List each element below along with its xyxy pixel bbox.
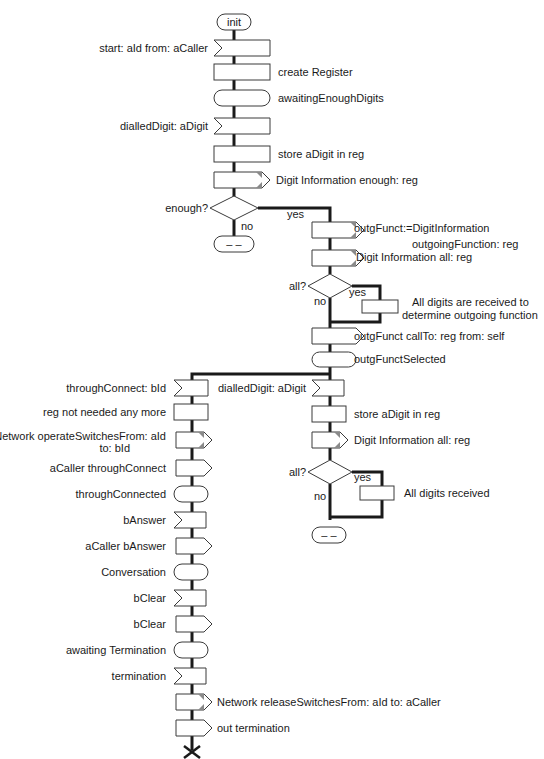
output-digit-info-enough: Digit Information enough: reg: [214, 172, 418, 188]
svg-text:All digits are received to: All digits are received to: [412, 296, 529, 308]
output-acaller-through-connect: aCaller throughConnect: [50, 460, 212, 476]
svg-text:store aDigit in reg: store aDigit in reg: [278, 148, 364, 160]
svg-text:awaiting Termination: awaiting Termination: [66, 644, 166, 656]
svg-text:All digits received: All digits received: [404, 487, 490, 499]
svg-text:all?: all?: [289, 280, 306, 292]
svg-text:outgFunct:=DigitInformation: outgFunct:=DigitInformation: [354, 222, 489, 234]
svg-text:enough?: enough?: [165, 202, 208, 214]
svg-text:outgFunctSelected: outgFunctSelected: [354, 353, 446, 365]
svg-text:awaitingEnoughDigits: awaitingEnoughDigits: [278, 92, 384, 104]
svg-text:Network releaseSwitchesFrom: a: Network releaseSwitchesFrom: aId to: aCa…: [217, 696, 441, 708]
svg-text:– –: – –: [321, 529, 337, 541]
flow-all1-merge: [330, 313, 380, 322]
svg-text:throughConnect: bId: throughConnect: bId: [66, 382, 166, 394]
svg-text:termination: termination: [112, 670, 166, 682]
svg-text:out termination: out termination: [217, 722, 290, 734]
input-dialled-digit-2: dialledDigit: aDigit: [218, 380, 344, 396]
state-through-connected: throughConnected: [75, 486, 208, 502]
output-b-clear: bClear: [134, 616, 212, 632]
task-store-digit: store aDigit in reg: [214, 146, 364, 162]
svg-text:reg not needed any more: reg not needed any more: [43, 406, 166, 418]
svg-text:create Register: create Register: [278, 66, 353, 78]
svg-text:start: aId from: aCaller: start: aId from: aCaller: [99, 42, 208, 54]
svg-text:dialledDigit: aDigit: dialledDigit: aDigit: [218, 382, 306, 394]
flow-split-left: [192, 374, 330, 382]
state-dash-1: – –: [214, 236, 254, 252]
svg-text:aCaller throughConnect: aCaller throughConnect: [50, 462, 166, 474]
svg-text:bClear: bClear: [134, 618, 167, 630]
state-awaiting-termination: awaiting Termination: [66, 642, 208, 658]
svg-text:– –: – –: [226, 238, 242, 250]
input-through-connect: throughConnect: bId: [66, 380, 208, 396]
task-store-digit-2: store aDigit in reg: [312, 406, 440, 422]
output-digit-info-all-1: Digit Information all: reg: [312, 250, 472, 266]
task-create-register: create Register: [214, 64, 353, 80]
svg-text:yes: yes: [354, 471, 372, 483]
input-b-clear: bClear: [134, 590, 206, 606]
output-outgfunct-assign: outgFunct:=DigitInformation outgoingFunc…: [312, 222, 518, 250]
task-all-digits-received-to-determine: All digits are received to determine out…: [362, 296, 538, 321]
state-dash-2: – –: [312, 527, 346, 543]
output-outgfunct-callto: outgFunct callTo: reg from: self: [312, 328, 505, 344]
svg-text:bClear: bClear: [134, 592, 167, 604]
output-digit-info-all-2: Digit Information all: reg: [312, 432, 470, 448]
svg-text:Digit Information enough: reg: Digit Information enough: reg: [276, 174, 418, 186]
input-dialled-digit: dialledDigit: aDigit: [120, 118, 270, 134]
svg-text:all?: all?: [289, 466, 306, 478]
svg-text:no: no: [241, 220, 253, 232]
svg-text:bAnswer: bAnswer: [123, 514, 166, 526]
input-b-answer: bAnswer: [123, 512, 206, 528]
flow-right-merge: [330, 500, 382, 517]
svg-text:Network operateSwitchesFrom: a: Network operateSwitchesFrom: aId: [0, 430, 166, 442]
svg-text:Digit Information all: reg: Digit Information all: reg: [356, 251, 472, 263]
svg-text:outgoingFunction: reg: outgoingFunction: reg: [412, 238, 518, 250]
output-network-operate-switches: Network operateSwitchesFrom: aId to: bId: [0, 430, 212, 454]
svg-text:Conversation: Conversation: [101, 566, 166, 578]
sdl-flowchart: init start: aId from: aCaller create Reg…: [0, 0, 544, 759]
svg-text:throughConnected: throughConnected: [75, 488, 166, 500]
svg-text:yes: yes: [349, 286, 367, 298]
svg-text:no: no: [314, 490, 326, 502]
state-awaiting-enough-digits: awaitingEnoughDigits: [214, 90, 384, 106]
output-acaller-b-answer: aCaller bAnswer: [85, 538, 212, 554]
input-start: start: aId from: aCaller: [99, 40, 270, 56]
task-reg-not-needed: reg not needed any more: [43, 404, 208, 420]
svg-text:dialledDigit: aDigit: dialledDigit: aDigit: [120, 120, 208, 132]
svg-text:store aDigit in reg: store aDigit in reg: [354, 408, 440, 420]
svg-text:yes: yes: [287, 208, 305, 220]
output-out-termination: out termination: [176, 720, 290, 736]
start-state: init: [217, 14, 251, 30]
input-termination: termination: [112, 668, 206, 684]
svg-text:aCaller bAnswer: aCaller bAnswer: [85, 540, 166, 552]
task-all-digits-received: All digits received: [360, 486, 490, 500]
svg-text:outgFunct callTo: reg from: se: outgFunct callTo: reg from: self: [354, 330, 505, 342]
state-outgfunct-selected: outgFunctSelected: [312, 352, 446, 367]
state-conversation: Conversation: [101, 564, 208, 580]
svg-text:no: no: [314, 295, 326, 307]
decision-all-1: all? yes no: [289, 274, 367, 307]
output-network-release-switches: Network releaseSwitchesFrom: aId to: aCa…: [176, 694, 441, 710]
svg-text:determine outgoing function: determine outgoing function: [402, 309, 538, 321]
svg-text:init: init: [227, 16, 241, 28]
svg-text:to: bId: to: bId: [99, 442, 130, 454]
svg-text:Digit Information all: reg: Digit Information all: reg: [354, 434, 470, 446]
